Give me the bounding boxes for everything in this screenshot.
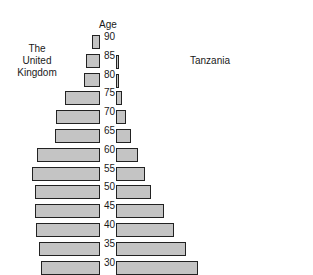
- tanzania-bar: [116, 74, 119, 88]
- tanzania-bar: [116, 129, 131, 143]
- tanzania-bar: [116, 261, 198, 275]
- uk-bar: [55, 129, 100, 143]
- uk-bar: [41, 261, 100, 275]
- age-axis-title: Age: [99, 19, 117, 30]
- tanzania-bar: [116, 242, 186, 256]
- uk-bar: [56, 110, 100, 124]
- uk-bar: [92, 35, 100, 49]
- uk-label-line: Kingdom: [14, 67, 60, 79]
- age-tick-label: 80: [104, 70, 124, 80]
- age-tick-label: 85: [104, 51, 124, 61]
- tanzania-bar: [116, 204, 164, 218]
- uk-bar: [65, 91, 100, 105]
- uk-bar: [36, 223, 100, 237]
- tanzania-bar: [116, 110, 126, 124]
- uk-label-line: United: [14, 55, 60, 67]
- uk-series-label: The United Kingdom: [14, 43, 60, 79]
- tanzania-series-label: Tanzania: [180, 55, 240, 67]
- tanzania-bar: [116, 55, 119, 69]
- tanzania-bar: [116, 185, 151, 199]
- tanzania-bar: [116, 91, 122, 105]
- uk-label-line: The: [14, 43, 60, 55]
- tanzania-bar: [116, 148, 138, 162]
- uk-bar: [84, 73, 100, 87]
- age-tick-label: 90: [104, 32, 124, 42]
- uk-bar: [35, 185, 100, 199]
- tanzania-bar: [116, 223, 174, 237]
- uk-bar: [37, 148, 100, 162]
- uk-bar: [35, 204, 100, 218]
- tanzania-bar: [116, 167, 145, 181]
- uk-bar: [86, 54, 100, 68]
- uk-bar: [32, 167, 100, 181]
- uk-bar: [39, 242, 100, 256]
